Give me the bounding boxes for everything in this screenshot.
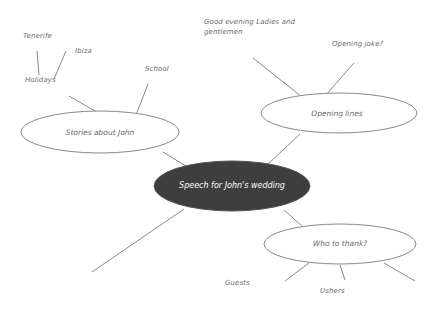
label-good-evening[interactable]: Good evening Ladies and gentlemen bbox=[204, 17, 314, 37]
label-tenerife[interactable]: Tenerife bbox=[23, 31, 52, 41]
connector-empty-child bbox=[384, 263, 415, 281]
connector-ibiza bbox=[54, 51, 66, 79]
label-ibiza[interactable]: Ibiza bbox=[75, 46, 92, 56]
connector-who-center bbox=[284, 210, 302, 226]
connector-opening-joke bbox=[325, 63, 354, 96]
label-opening-joke[interactable]: Opening joke? bbox=[332, 39, 383, 49]
label-central-topic: Speech for John's wedding bbox=[179, 181, 285, 190]
label-guests[interactable]: Guests bbox=[225, 278, 250, 288]
label-holidays[interactable]: Holidays bbox=[25, 75, 56, 85]
label-stories-about-john: Stories about John bbox=[66, 128, 135, 137]
label-school[interactable]: School bbox=[145, 64, 169, 74]
connector-good-evening bbox=[253, 58, 302, 97]
connector-empty-branch bbox=[92, 209, 184, 272]
label-who-to-thank: Who to thank? bbox=[313, 239, 367, 248]
connector-tenerife bbox=[37, 51, 39, 75]
connector-ushers bbox=[340, 265, 345, 280]
connector-school bbox=[136, 84, 148, 115]
label-opening-lines: Opening lines bbox=[311, 109, 362, 118]
label-ushers[interactable]: Ushers bbox=[320, 286, 345, 296]
connector-guests bbox=[285, 263, 309, 281]
connector-opening-center bbox=[266, 134, 300, 166]
